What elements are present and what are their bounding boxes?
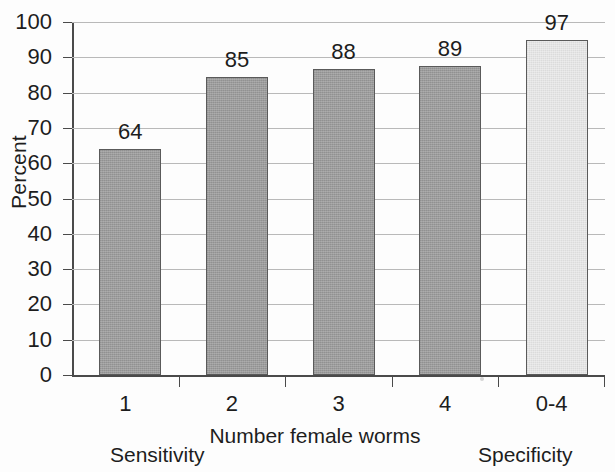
bar-value-label: 64 — [100, 121, 160, 143]
x-tick-label-3: 3 — [294, 393, 384, 415]
annotation-sensitivity: Sensitivity — [110, 443, 205, 467]
x-tick — [179, 376, 180, 387]
x-tick-label-0-4: 0-4 — [507, 393, 597, 415]
x-tick — [604, 376, 605, 387]
y-tick — [63, 128, 72, 129]
x-tick — [498, 376, 499, 387]
y-tick-label: 50 — [0, 188, 52, 210]
bar-1 — [99, 149, 161, 375]
y-axis-line — [72, 22, 74, 377]
bar-value-label: 85 — [207, 49, 267, 71]
y-tick-label: 60 — [0, 152, 52, 174]
bar-chart-figure: Percent 0102030405060708090100 648588899… — [0, 0, 615, 472]
y-tick — [63, 269, 72, 270]
y-tick — [63, 234, 72, 235]
x-axis-line — [72, 375, 605, 377]
x-tick — [392, 376, 393, 387]
y-tick-label: 100 — [0, 11, 52, 33]
y-tick — [63, 163, 72, 164]
y-tick — [63, 340, 72, 341]
bar-0-4 — [526, 40, 588, 375]
bar-value-label: 89 — [420, 38, 480, 60]
x-axis-title: Number female worms — [190, 424, 440, 448]
y-tick — [63, 375, 72, 376]
y-tick-label: 30 — [0, 258, 52, 280]
bar-4 — [419, 66, 481, 375]
y-tick-label: 70 — [0, 117, 52, 139]
y-tick — [63, 57, 72, 58]
bar-value-label: 97 — [527, 12, 587, 34]
y-tick — [63, 22, 72, 23]
y-tick — [63, 93, 72, 94]
x-tick-label-2: 2 — [187, 393, 277, 415]
bar-3 — [313, 69, 375, 375]
y-tick-label: 0 — [0, 364, 52, 386]
bar-2 — [206, 77, 268, 375]
y-tick-label: 80 — [0, 82, 52, 104]
y-tick-label: 20 — [0, 293, 52, 315]
scan-speck — [480, 377, 484, 381]
y-tick-label: 90 — [0, 46, 52, 68]
y-tick-label: 10 — [0, 329, 52, 351]
y-tick — [63, 199, 72, 200]
x-tick-label-1: 1 — [80, 393, 170, 415]
x-tick — [285, 376, 286, 387]
x-tick-label-4: 4 — [400, 393, 490, 415]
y-tick-label: 40 — [0, 223, 52, 245]
bar-value-label: 88 — [314, 41, 374, 63]
gridline — [72, 22, 605, 23]
annotation-specificity: Specificity — [478, 443, 573, 467]
y-tick — [63, 304, 72, 305]
plot-area — [72, 22, 605, 377]
